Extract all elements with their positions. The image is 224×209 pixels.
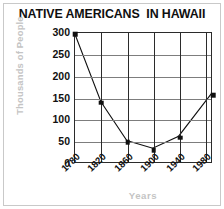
chart-screenshot: NATIVE AMERICANS IN HAWAII Thousands of … [0,0,224,209]
data-point-marker [211,93,216,98]
gridline-horizontal [75,77,211,78]
data-point-marker [125,140,130,145]
data-point-marker [178,136,183,141]
y-axis-tick-label: 250 [36,48,70,60]
data-point-marker [73,32,78,37]
gridline-vertical [154,33,155,162]
y-axis-title: Thousands of People [14,2,25,130]
x-axis-title: Years [74,190,212,201]
y-axis-tick-label: 200 [36,70,70,82]
gridline-vertical [206,33,207,162]
gridline-vertical [101,33,102,162]
gridline-horizontal [75,99,211,100]
y-axis-tick-label: 150 [36,92,70,104]
y-axis-tick-label: 50 [36,135,70,147]
series-polyline [75,34,211,148]
data-point-marker [99,101,104,106]
gridline-vertical [180,33,181,162]
gridline-horizontal [75,120,211,121]
y-axis-tick-labels: 050100150200250300 [34,32,70,163]
chart-title: NATIVE AMERICANS IN HAWAII [0,7,224,21]
y-axis-tick-label: 100 [36,113,70,125]
plot-area [74,32,212,163]
gridline-horizontal [75,142,211,143]
gridline-horizontal [75,55,211,56]
y-axis-tick-label: 300 [36,26,70,38]
